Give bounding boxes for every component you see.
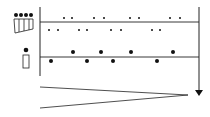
diagram-canvas (0, 0, 210, 117)
dot-above (169, 17, 171, 19)
dot-below (57, 29, 59, 31)
dot-below (85, 59, 89, 63)
single-performer-icon (23, 48, 29, 68)
head-icon (19, 13, 23, 17)
dot-below (110, 29, 112, 31)
dot-below (151, 29, 153, 31)
dot-below (49, 59, 53, 63)
dot-above (129, 50, 133, 54)
dot-above (63, 17, 65, 19)
right-time-arrow (195, 7, 203, 96)
head-icon (14, 13, 18, 17)
group-performers-icon (14, 13, 33, 33)
dot-below (86, 29, 88, 31)
dot-above (99, 50, 103, 54)
dot-below (78, 29, 80, 31)
arrow-down-icon (195, 90, 203, 96)
decrescendo-wedge-icon (40, 87, 188, 108)
dot-above (138, 17, 140, 19)
head-icon (24, 48, 29, 53)
dot-below (48, 29, 50, 31)
bodies-icon (14, 19, 33, 33)
body-icon (23, 55, 29, 68)
head-icon (29, 13, 33, 17)
dot-above (179, 17, 181, 19)
dot-above (71, 50, 75, 54)
dot-below (111, 59, 115, 63)
lower-track-single-dots (40, 50, 199, 63)
dot-below (159, 29, 161, 31)
dot-below (155, 59, 159, 63)
dot-above (129, 17, 131, 19)
dot-below (120, 29, 122, 31)
wedge-lines (40, 87, 188, 108)
dot-above (71, 17, 73, 19)
upper-track-group-dots (40, 17, 199, 31)
dot-above (93, 17, 95, 19)
dot-above (103, 17, 105, 19)
dot-above (171, 50, 175, 54)
head-icon (24, 13, 28, 17)
